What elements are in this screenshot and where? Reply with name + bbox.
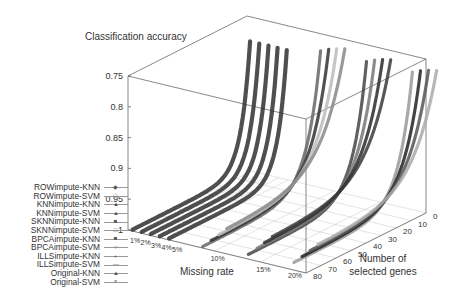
x-tick-label: 20%: [288, 272, 302, 279]
y-tick-label: 40: [373, 242, 382, 251]
legend-marker-icon: ◇: [104, 192, 128, 200]
x-tick-label: 3%: [151, 242, 161, 249]
legend-marker-icon: ◆: [104, 183, 128, 191]
legend-marker-icon: ○: [104, 243, 128, 251]
y-tick-label: 0: [433, 212, 438, 221]
legend-item: Original-SVM×: [2, 278, 130, 287]
legend-marker-icon: +: [104, 252, 128, 260]
z-tick-label: 0.9: [110, 163, 123, 173]
z-tick-label: 0.8: [110, 102, 123, 112]
legend: ROWimpute-KNN◆ROWimpute-SVM◇KNNimpute-KN…: [2, 183, 130, 286]
legend-label: Original-SVM: [50, 278, 100, 287]
series-curve: [203, 51, 321, 247]
legend-marker-icon: ▲: [104, 200, 128, 208]
z-tick-label: 0.85: [105, 133, 123, 143]
x-tick-label: 1%: [130, 237, 140, 244]
y-tick-label: 80: [313, 272, 322, 281]
y-axis-title-line1: Number of: [360, 253, 407, 264]
y-tick-label: 20: [403, 227, 412, 236]
legend-marker-icon: ×: [104, 278, 128, 286]
y-tick-label: 70: [328, 265, 337, 274]
legend-marker-icon: ▲: [104, 209, 128, 217]
x-axis-title: Missing rate: [180, 266, 234, 277]
x-tick-label: 5%: [172, 246, 182, 253]
y-tick-label: 30: [388, 235, 397, 244]
legend-marker-icon: ▲: [104, 269, 128, 277]
legend-marker-icon: □: [104, 226, 128, 234]
series-curve: [151, 46, 269, 234]
z-axis-title: Classification accuracy: [85, 31, 187, 42]
x-tick-label: 4%: [162, 244, 172, 251]
data-curves: [133, 41, 437, 262]
series-curve: [211, 49, 329, 240]
y-tick-label: 10: [418, 220, 427, 229]
y-tick-label: 60: [343, 257, 352, 266]
legend-marker-icon: ■: [104, 218, 128, 226]
x-tick-label: 10%: [211, 255, 225, 262]
x-tick-label: 15%: [256, 266, 270, 273]
z-tick-label: 0.75: [105, 71, 123, 81]
x-tick-label: 2%: [141, 239, 151, 246]
legend-marker-icon: —: [104, 261, 128, 269]
y-axis-title-line2: selected genes: [349, 266, 416, 277]
legend-marker-icon: ■: [104, 235, 128, 243]
